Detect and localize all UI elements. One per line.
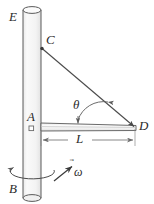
angle-arc-theta bbox=[78, 102, 108, 120]
rod-bottom-ellipse bbox=[23, 195, 41, 202]
label-D: D bbox=[139, 119, 148, 132]
horizontal-rod-AD bbox=[41, 123, 136, 131]
label-B: B bbox=[9, 182, 17, 195]
omega-arrow bbox=[54, 167, 72, 182]
point-C-dot bbox=[40, 47, 43, 50]
omega-symbol: ω bbox=[74, 165, 82, 179]
vertical-rod-EB bbox=[23, 7, 41, 202]
label-L: L bbox=[76, 132, 83, 145]
label-theta: θ bbox=[73, 98, 79, 111]
physics-diagram: E C A B D θ L ⃗ ω bbox=[0, 0, 154, 204]
label-C: C bbox=[46, 33, 55, 46]
dimension-L bbox=[41, 129, 135, 146]
point-A-marker bbox=[29, 126, 34, 131]
label-omega: ⃗ ω bbox=[74, 166, 82, 178]
label-E: E bbox=[9, 10, 17, 23]
cable-CD bbox=[42, 48, 135, 127]
label-A: A bbox=[27, 110, 35, 123]
rod-top-ellipse bbox=[23, 7, 41, 14]
